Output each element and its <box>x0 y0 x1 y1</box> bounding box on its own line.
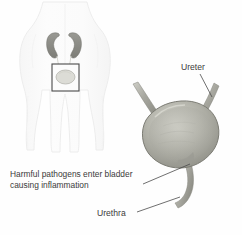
urethra-label: Urethra <box>97 208 126 218</box>
ureter-leader-line <box>200 74 212 97</box>
pathogens-label-line2: causing inflammation <box>10 180 89 190</box>
urethra-leader-line <box>137 197 180 212</box>
body-bladder <box>56 70 75 84</box>
left-ureter <box>133 82 157 114</box>
pathogens-label-line1: Harmful pathogens enter bladder <box>10 169 133 179</box>
anatomy-illustration-canvas: Ureter Urethra Harmful pathogens enter b… <box>0 0 242 235</box>
urethra <box>175 163 194 208</box>
bladder <box>142 101 218 168</box>
pathogens-leader-line <box>143 164 190 184</box>
ureter-label: Ureter <box>181 62 205 72</box>
bladder-anatomy-figure: Ureter Urethra Harmful pathogens enter b… <box>0 0 242 235</box>
